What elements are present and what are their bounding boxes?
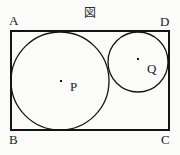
circle-q: [108, 32, 168, 92]
circle-p-center-dot: [60, 80, 62, 82]
circle-q-center-dot: [137, 58, 139, 60]
vertex-label-a: A: [9, 14, 18, 27]
circle-q-label: Q: [147, 62, 156, 75]
vertex-label-b: B: [9, 133, 18, 146]
rectangle-abcd: [11, 31, 169, 130]
vertex-label-d: D: [160, 15, 169, 28]
geometry-figure: 図 A D B C P Q: [0, 0, 180, 155]
vertex-label-c: C: [161, 133, 170, 146]
figure-canvas: [0, 0, 180, 155]
circle-p-label: P: [70, 80, 77, 93]
